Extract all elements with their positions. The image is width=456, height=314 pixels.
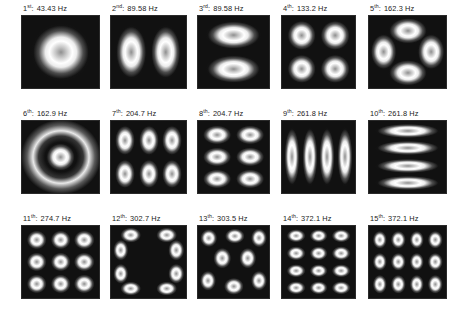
mode-lobe — [50, 252, 72, 272]
mode-lobe — [235, 125, 265, 145]
mode-lobe — [199, 229, 217, 248]
mode-label-separator: : — [32, 109, 34, 118]
mode-frequency-value: 261.8 Hz — [297, 109, 327, 118]
mode-frequency-value: 274.7 Hz — [41, 214, 71, 223]
mode-shape-panel-8 — [197, 120, 270, 194]
mode-label-separator: : — [383, 214, 385, 223]
mode-frequency-value: 89.58 Hz — [127, 4, 157, 13]
mode-label-1: 1st:43.43 Hz — [23, 4, 67, 14]
mode-cell-10: 10th:261.8 Hz — [364, 109, 447, 212]
mode-lobe — [251, 270, 268, 292]
mode-label-9: 9th:261.8 Hz — [283, 109, 327, 119]
mode-cell-1: 1st:43.43 Hz — [17, 4, 100, 107]
mode-lobe-layer — [282, 226, 355, 298]
mode-lobe — [74, 252, 96, 272]
mode-frequency-value: 133.2 Hz — [297, 4, 327, 13]
mode-frequency-value: 303.5 Hz — [217, 214, 247, 223]
mode-lobe — [30, 23, 90, 81]
mode-shape-panel-6 — [21, 120, 100, 194]
mode-cell-14: 14th:372.1 Hz — [277, 214, 356, 314]
mode-row-2: 6th:162.9 Hz7th:204.7 Hz8th:204.7 Hz9th:… — [0, 109, 456, 214]
mode-lobe — [205, 55, 262, 84]
mode-row-1: 1st:43.43 Hz2nd:89.58 Hz3rd:89.58 Hz4th:… — [0, 4, 456, 109]
mode-lobe — [319, 127, 335, 187]
mode-label-separator: : — [296, 214, 298, 223]
mode-lobe — [155, 281, 178, 297]
mode-frequency-value: 261.8 Hz — [388, 109, 418, 118]
mode-label-separator: : — [122, 4, 124, 13]
mode-lobe — [302, 127, 318, 187]
mode-lobe-layer — [111, 226, 186, 298]
mode-lobe — [372, 252, 387, 271]
mode-lobe — [309, 229, 329, 243]
mode-cell-4: 4th:133.2 Hz — [277, 4, 356, 107]
mode-label-10: 10th:261.8 Hz — [370, 109, 419, 119]
mode-lobe — [370, 33, 398, 70]
mode-lobe-layer — [282, 16, 355, 88]
mode-label-14: 14th:372.1 Hz — [283, 214, 332, 224]
mode-lobe — [337, 127, 353, 187]
mode-lobe-layer — [22, 226, 99, 298]
mode-label-4: 4th:133.2 Hz — [283, 4, 327, 14]
mode-frequency-value: 204.7 Hz — [126, 109, 156, 118]
mode-shape-figure: 1st:43.43 Hz2nd:89.58 Hz3rd:89.58 Hz4th:… — [0, 0, 456, 314]
mode-cell-5: 5th:162.3 Hz — [364, 4, 447, 107]
mode-ordinal-number: 11 — [23, 214, 31, 223]
mode-lobe — [309, 263, 329, 277]
mode-lobe — [391, 230, 406, 249]
mode-cell-15: 15th:372.1 Hz — [364, 214, 447, 314]
mode-lobe — [202, 147, 232, 167]
mode-cell-9: 9th:261.8 Hz — [277, 109, 356, 212]
mode-lobe — [119, 281, 142, 297]
mode-lobe-layer — [22, 16, 99, 88]
mode-lobe-layer — [369, 121, 446, 193]
mode-shape-panel-5 — [368, 15, 447, 89]
mode-lobe — [26, 274, 48, 294]
mode-label-3: 3rd:89.58 Hz — [199, 4, 244, 14]
mode-lobe — [45, 143, 76, 172]
mode-shape-panel-15 — [368, 225, 447, 299]
mode-cell-12: 12th:302.7 Hz — [106, 214, 187, 314]
mode-lobe — [331, 229, 351, 243]
mode-shape-panel-4 — [281, 15, 356, 89]
mode-frequency-value: 372.1 Hz — [388, 214, 418, 223]
mode-lobe — [286, 20, 317, 50]
mode-label-12: 12th:302.7 Hz — [112, 214, 161, 224]
mode-lobe — [409, 252, 424, 271]
mode-lobe — [115, 158, 136, 188]
mode-label-8: 8th:204.7 Hz — [199, 109, 243, 119]
mode-label-2: 2nd:89.58 Hz — [112, 4, 158, 14]
mode-lobe — [213, 248, 231, 270]
mode-label-7: 7th:204.7 Hz — [112, 109, 156, 119]
mode-lobe — [286, 229, 306, 243]
mode-lobe-layer — [111, 121, 186, 193]
mode-frequency-value: 89.58 Hz — [213, 4, 243, 13]
mode-label-separator: : — [208, 4, 210, 13]
mode-lobe — [409, 230, 424, 249]
mode-lobe — [251, 228, 268, 248]
mode-lobe-layer — [369, 16, 446, 88]
mode-lobe — [372, 275, 387, 294]
mode-shape-panel-9 — [281, 120, 356, 194]
mode-lobe-layer — [198, 16, 269, 88]
mode-lobe — [50, 274, 72, 294]
mode-lobe — [286, 281, 306, 295]
mode-lobe — [372, 230, 387, 249]
mode-label-13: 13th:303.5 Hz — [199, 214, 248, 224]
mode-label-separator: : — [121, 109, 123, 118]
mode-shape-panel-1 — [21, 15, 100, 89]
mode-label-separator: : — [31, 4, 33, 13]
mode-label-separator: : — [379, 4, 381, 13]
mode-row-3: 11th:274.7 Hz12th:302.7 Hz13th:303.5 Hz1… — [0, 214, 456, 314]
mode-lobe — [199, 270, 216, 292]
mode-lobe — [428, 275, 443, 294]
mode-label-15: 15th:372.1 Hz — [370, 214, 419, 224]
mode-lobe-layer — [198, 121, 269, 193]
mode-lobe — [286, 263, 306, 277]
mode-lobe — [428, 230, 443, 249]
mode-cell-11: 11th:274.7 Hz — [17, 214, 100, 314]
mode-shape-panel-10 — [368, 120, 447, 194]
mode-lobe — [374, 158, 440, 173]
mode-lobe — [26, 252, 48, 272]
mode-shape-panel-12 — [110, 225, 187, 299]
